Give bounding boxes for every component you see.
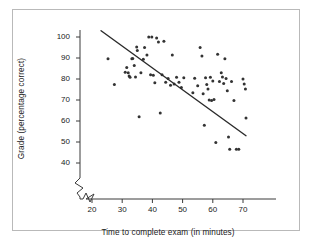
x-axis-tick-label: 20	[82, 205, 102, 214]
y-axis-label: Grade (percentage correct)	[17, 44, 26, 174]
y-axis-tick-label: 50	[48, 137, 70, 146]
y-axis-tick-label: 80	[48, 74, 70, 83]
x-axis-tick-label: 40	[142, 205, 162, 214]
y-axis-tick-label: 100	[48, 32, 70, 41]
x-axis-tick-label: 30	[112, 205, 132, 214]
x-axis-label: Time to complete exam (in minutes)	[78, 228, 258, 237]
x-axis-tick-label: 50	[173, 205, 193, 214]
scatter-plot-figure: Grade (percentage correct) Time to compl…	[0, 0, 316, 251]
y-axis-tick-label: 60	[48, 116, 70, 125]
y-axis-tick-label: 40	[48, 158, 70, 167]
x-axis-tick-label: 70	[233, 205, 253, 214]
x-axis-tick-label: 60	[203, 205, 223, 214]
y-axis-tick-label: 90	[48, 53, 70, 62]
y-axis-tick-label: 70	[48, 95, 70, 104]
